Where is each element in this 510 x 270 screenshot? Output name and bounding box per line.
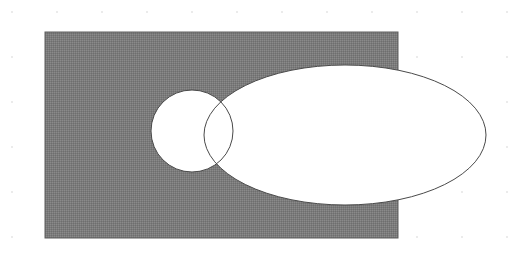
large-ellipse[interactable] — [204, 65, 486, 205]
shapes-figure — [0, 0, 510, 270]
figure-canvas: Overlapping shapes diagram — [0, 0, 510, 270]
